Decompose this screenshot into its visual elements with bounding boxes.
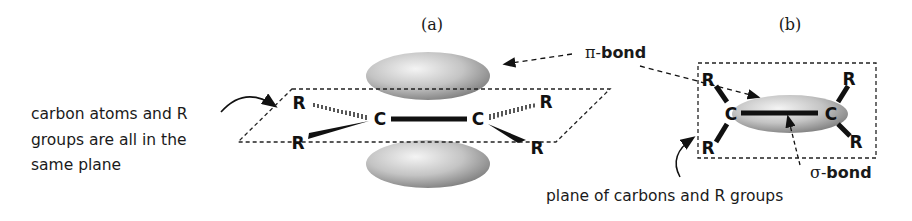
pi-bond-prefix: π- <box>585 43 601 62</box>
panel-a-label: (a) <box>421 15 443 34</box>
carbon-b-right: C <box>825 104 837 124</box>
plane-caption: plane of carbons and R groups <box>546 187 783 205</box>
r-group-a-top-left: R <box>292 93 305 113</box>
solid-wedge-right <box>488 124 526 143</box>
sigma-bond-label: σ-bond <box>810 163 872 182</box>
plane-note-arrow <box>221 97 275 112</box>
bond-b-bottom-left <box>716 124 727 142</box>
r-group-a-bottom-left: R <box>291 133 304 153</box>
carbon-b-left: C <box>725 104 737 124</box>
pi-orbital-top <box>366 52 490 100</box>
solid-wedge-left <box>308 121 369 139</box>
plane-note-line3: same plane <box>31 156 121 174</box>
pi-bond-arrow-a <box>505 54 572 64</box>
bond-b-top-left <box>716 86 727 102</box>
r-group-b-bottom-right: R <box>849 132 862 152</box>
sigma-bond-prefix: σ- <box>810 163 826 182</box>
pi-bond-word: bond <box>601 43 646 62</box>
r-group-a-bottom-right: R <box>530 138 543 158</box>
bond-b-bottom-right <box>838 124 850 136</box>
hashed-wedge-left <box>314 103 366 120</box>
r-group-a-top-right: R <box>539 92 552 112</box>
plane-note-line2: groups are all in the <box>31 131 187 149</box>
sigma-bond-word: bond <box>826 163 871 182</box>
panel-b-label: (b) <box>779 15 802 34</box>
pi-bond-arrow-b <box>640 66 758 97</box>
r-group-b-top-right: R <box>842 69 855 89</box>
pi-bond-diagram: (a) (b) carbon atoms and R groups are al… <box>0 0 912 221</box>
pi-orbital-bottom <box>366 140 490 188</box>
hashed-wedge-right <box>490 104 534 121</box>
plane-caption-arrow <box>676 138 693 177</box>
r-group-b-bottom-left: R <box>701 138 714 158</box>
carbon-a-left: C <box>374 109 386 129</box>
carbon-a-right: C <box>472 109 484 129</box>
r-group-b-top-left: R <box>701 70 714 90</box>
plane-note-line1: carbon atoms and R <box>31 105 188 123</box>
pi-bond-label: π-bond <box>585 43 646 62</box>
